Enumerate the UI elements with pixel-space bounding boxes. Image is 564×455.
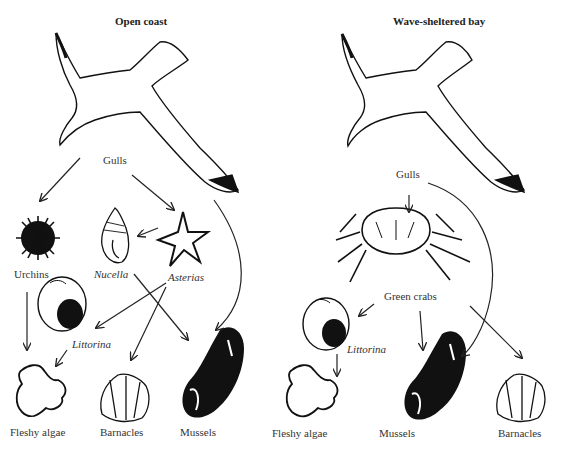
urchin-illustration [16, 216, 60, 260]
label-littorina: Littorina [72, 338, 111, 350]
label-fleshy-algae: Fleshy algae [10, 426, 65, 438]
nucella-illustration [102, 208, 129, 263]
label-asterias: Asterias [168, 271, 204, 283]
label-littorina: Littorina [347, 343, 386, 355]
littorina-illustration [38, 277, 86, 331]
arrow-gulls-to-urchins [40, 158, 80, 201]
label-gulls: Gulls [103, 154, 127, 166]
panel-title-wave-sheltered-bay: Wave-sheltered bay [393, 15, 485, 27]
food-web-diagram [0, 0, 564, 455]
arrow-littorina-to-algae [56, 350, 67, 366]
label-fleshy-algae: Fleshy algae [272, 427, 327, 439]
arrow-asterias-to-littorina [96, 283, 166, 328]
arrow-asterias-to-barnacles [131, 287, 166, 360]
littorina-illustration [303, 298, 349, 350]
label-mussels: Mussels [379, 427, 415, 439]
arrow-gulls-to-mussels [214, 200, 241, 330]
panel-open-coast [16, 33, 244, 421]
mussels-illustration [405, 331, 467, 419]
barnacles-illustration [497, 374, 545, 421]
fleshy-algae-illustration [17, 365, 66, 416]
label-mussels: Mussels [180, 426, 216, 438]
arrow-asterias-to-nucella [138, 228, 158, 236]
arrow-crabs-to-littorina [359, 304, 374, 316]
mussels-illustration [183, 327, 245, 417]
gull-illustration [56, 33, 238, 192]
gull-illustration [342, 34, 524, 192]
barnacles-illustration [101, 374, 149, 421]
arrow-crabs-to-mussels [420, 311, 423, 350]
label-barnacles: Barnacles [498, 427, 541, 439]
green-crab-illustration [336, 208, 470, 282]
arrow-gulls-to-mussels [428, 183, 492, 356]
label-barnacles: Barnacles [100, 426, 143, 438]
arrow-nucella-to-mussels [134, 274, 188, 340]
panel-wave-sheltered-bay [287, 34, 545, 421]
asterias-illustration [158, 212, 208, 266]
label-gulls: Gulls [396, 168, 420, 180]
panel-title-open-coast: Open coast [115, 15, 167, 27]
fleshy-algae-illustration [287, 365, 338, 416]
label-nucella: Nucella [94, 268, 128, 280]
arrow-crabs-to-barnacles [470, 306, 522, 358]
arrows-open-coast [27, 158, 241, 366]
arrow-gulls-to-asterias [132, 175, 174, 210]
label-green-crabs: Green crabs [384, 290, 437, 302]
label-urchins: Urchins [14, 268, 49, 280]
